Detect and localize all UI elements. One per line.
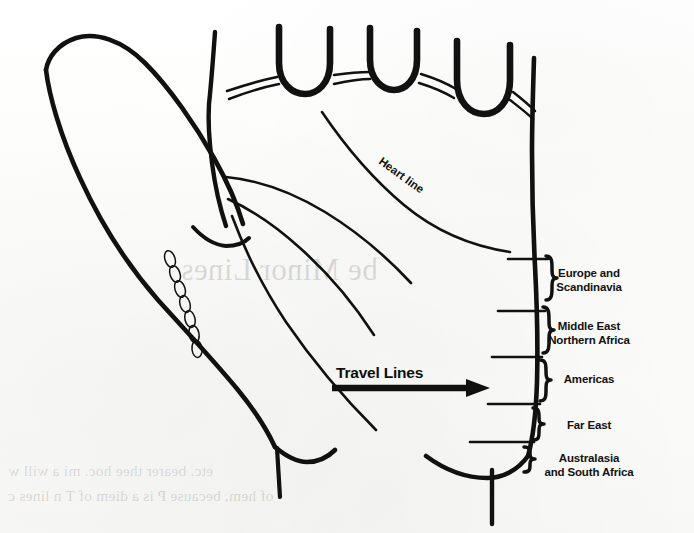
zone-label-far-east: Far East — [489, 419, 689, 433]
finger-base-u-1 — [279, 27, 330, 94]
index-finger-edge — [209, 32, 226, 226]
chained-line — [163, 249, 203, 358]
girdle-segment-2a — [334, 72, 370, 75]
zone-label-middle-east-northern-africa: Middle East Northern Africa — [489, 320, 689, 347]
wrist-left-curve — [275, 447, 335, 462]
zone-label-americas: Americas — [489, 373, 689, 387]
finger-base-u-2 — [370, 28, 417, 90]
head-line-lower — [228, 199, 374, 335]
zone-label-australasia-south-africa: Australasia and South Africa — [489, 452, 689, 479]
zone-label-europe-scandinavia: Europe and Scandinavia — [489, 267, 689, 294]
girdle-segment-1a — [227, 77, 277, 91]
finger-base-u-3 — [457, 41, 510, 114]
travel-lines-label: Travel Lines — [336, 364, 423, 382]
girdle-segment-3a — [421, 74, 456, 89]
heart-line-label-text: Heart line — [377, 155, 426, 196]
girdle-segment-2b — [334, 79, 370, 84]
heart-line-label: Heart line — [377, 155, 426, 196]
palm-left-edge — [46, 70, 275, 447]
wrist-tick-left — [277, 448, 280, 497]
life-line — [232, 216, 376, 430]
girdle-segment-1b — [229, 84, 279, 99]
palmistry-diagram-page: be Minor Lines etc. bearer thee hoc. mi … — [0, 0, 694, 533]
girdle-segment-4b — [510, 100, 533, 119]
